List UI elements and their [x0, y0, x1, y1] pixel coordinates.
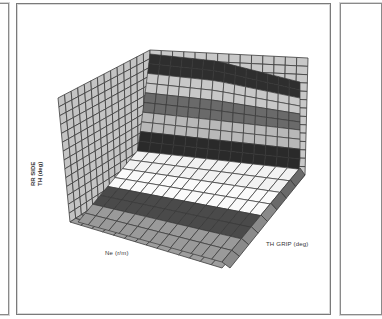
surface-cell [197, 128, 209, 139]
surface-cell [199, 109, 211, 120]
surface-cell [148, 64, 160, 75]
surface-cell [266, 117, 277, 127]
surface-cell [243, 143, 255, 154]
back-wall-cell [285, 57, 296, 66]
surface-cell [220, 131, 232, 142]
surface-cell [140, 122, 153, 133]
surface-cell [177, 96, 189, 107]
surface-cell [158, 65, 170, 76]
surface-cell [190, 78, 202, 89]
surface-cell [149, 143, 162, 154]
surface-cell [189, 98, 201, 109]
surface-cell [266, 126, 277, 137]
surface-cell [266, 145, 278, 156]
surface-cell [143, 102, 155, 113]
surface-cell [208, 139, 220, 150]
surface-cell [187, 117, 199, 128]
surface-cell [142, 112, 154, 123]
surface-cell [139, 132, 152, 143]
surface-cell [175, 116, 187, 127]
surface-cell [202, 69, 214, 80]
z-axis-label-line1: RR SIDE [30, 162, 37, 186]
surface-cell [189, 88, 201, 99]
surface-cell [146, 73, 158, 84]
surface-cell [212, 90, 224, 101]
back-wall-cell [296, 66, 307, 75]
surface-cell [145, 83, 157, 94]
surface-cell [176, 106, 188, 117]
surface-cell [181, 57, 193, 68]
back-wall-cell [240, 55, 251, 64]
surface-cell [277, 147, 289, 158]
back-wall-cell [297, 57, 308, 66]
surface-cell [221, 121, 233, 132]
x-axis-label: Ne (r/m) [105, 250, 129, 256]
back-wall-cell [274, 56, 285, 65]
surface-cell [289, 138, 300, 149]
surface-cell [203, 60, 214, 71]
surface-cell [210, 110, 222, 121]
surface-cell [144, 93, 156, 104]
surface-cell [154, 104, 166, 115]
surface-cell [185, 137, 197, 148]
back-wall-cell [274, 65, 285, 74]
surface-cell [287, 158, 300, 169]
surface-cell [254, 134, 266, 145]
surface-cell [160, 55, 172, 66]
surface-cell [255, 125, 267, 136]
surface-cell [220, 140, 232, 151]
back-wall-cell [229, 54, 240, 63]
surface-cell [178, 87, 190, 98]
surface-cell [153, 113, 165, 124]
surface-cell [207, 149, 220, 160]
surface-cell [174, 135, 186, 146]
z-axis-label: RR SIDE TH (deg) [30, 162, 44, 186]
surface-cell [198, 118, 210, 129]
surface-cell [243, 133, 255, 144]
surface-cell [232, 122, 244, 133]
surface-cell [172, 145, 185, 156]
surface-cell [201, 79, 213, 90]
surface-cell [163, 124, 175, 135]
z-axis-label-line2: TH (deg) [37, 162, 44, 186]
surface-cell [233, 113, 245, 124]
surface-cell [276, 157, 289, 168]
surface-cell [211, 100, 223, 111]
surface-cell [209, 129, 221, 140]
surface-cell [156, 84, 168, 95]
surface-cell [149, 54, 161, 65]
surface-cell [192, 59, 204, 70]
back-wall-cell [263, 56, 274, 65]
surface-cell [151, 133, 164, 144]
surface-cell [197, 138, 209, 149]
surface-cell [241, 153, 254, 164]
surface-cell [188, 107, 200, 118]
surface-cell [264, 155, 277, 166]
back-wall-cell [218, 53, 229, 62]
surface-cell [168, 76, 180, 87]
surface-cell [180, 67, 192, 78]
back-wall-cell [285, 65, 296, 74]
back-wall-cell [263, 64, 274, 73]
surface-cell [195, 148, 208, 159]
surface-cell [170, 56, 182, 67]
surface-cell [277, 127, 288, 138]
surface-cell [200, 99, 212, 110]
surface-cell [209, 120, 221, 131]
surface-cell [155, 94, 167, 105]
surface-cell [253, 154, 266, 165]
surface-cell [289, 129, 300, 140]
surface-cell [164, 115, 176, 126]
surface-cell [183, 146, 196, 157]
surface-cell [254, 144, 266, 155]
surface-cell [243, 123, 255, 134]
surface-cell [175, 126, 187, 137]
surface-cell [137, 141, 150, 152]
surface-cell [152, 123, 164, 134]
surface-cell [221, 111, 233, 122]
surface-cell [218, 150, 231, 161]
surface-cell [230, 151, 243, 162]
surface-cell [165, 105, 177, 116]
surface-cell [186, 127, 198, 138]
